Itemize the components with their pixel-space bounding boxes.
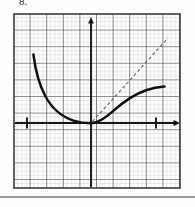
graph-figure (13, 13, 181, 189)
worksheet-page: 8. (0, 0, 195, 207)
grid-paper (14, 14, 180, 188)
problem-number-label: 8. (19, 0, 27, 7)
graph-svg (13, 13, 181, 189)
page-bottom-rule (0, 196, 195, 198)
